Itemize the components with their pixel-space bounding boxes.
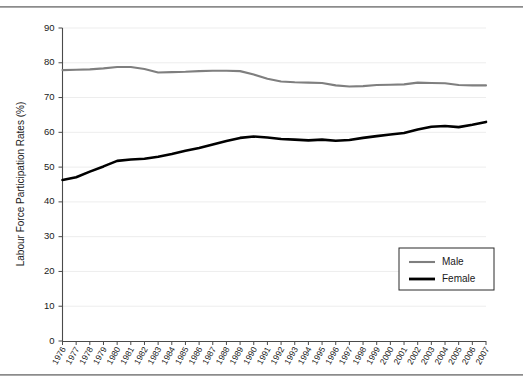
y-axis-title: Labour Force Participation Rates (%)	[15, 102, 26, 267]
figure-container: 0102030405060708090 19761977197819791980…	[0, 0, 523, 388]
y-tick-label: 0	[49, 335, 54, 346]
series-line-female	[63, 122, 487, 180]
y-tick-label: 90	[44, 22, 55, 33]
y-tick-label: 10	[44, 300, 55, 311]
data-series-group	[63, 67, 487, 180]
y-tick-label: 20	[44, 265, 55, 276]
y-axis-ticks-group: 0102030405060708090	[44, 22, 63, 346]
legend-border-box	[399, 248, 494, 290]
y-tick-label: 40	[44, 195, 55, 206]
y-tick-label: 30	[44, 230, 55, 241]
y-tick-label: 70	[44, 91, 55, 102]
series-line-male	[63, 67, 487, 86]
x-axis-ticks-group: 1976197719781979198019811982198319841985…	[50, 341, 492, 366]
chart-legend: MaleFemale	[399, 248, 494, 290]
y-tick-label: 80	[44, 56, 55, 67]
legend-label-female: Female	[442, 273, 476, 284]
x-tick-label: 2007	[473, 345, 491, 366]
legend-label-male: Male	[442, 256, 464, 267]
y-tick-label: 60	[44, 126, 55, 137]
y-tick-label: 50	[44, 161, 55, 172]
line-chart: 0102030405060708090 19761977197819791980…	[0, 0, 523, 388]
chart-plot-area: 0102030405060708090 19761977197819791980…	[0, 0, 523, 388]
